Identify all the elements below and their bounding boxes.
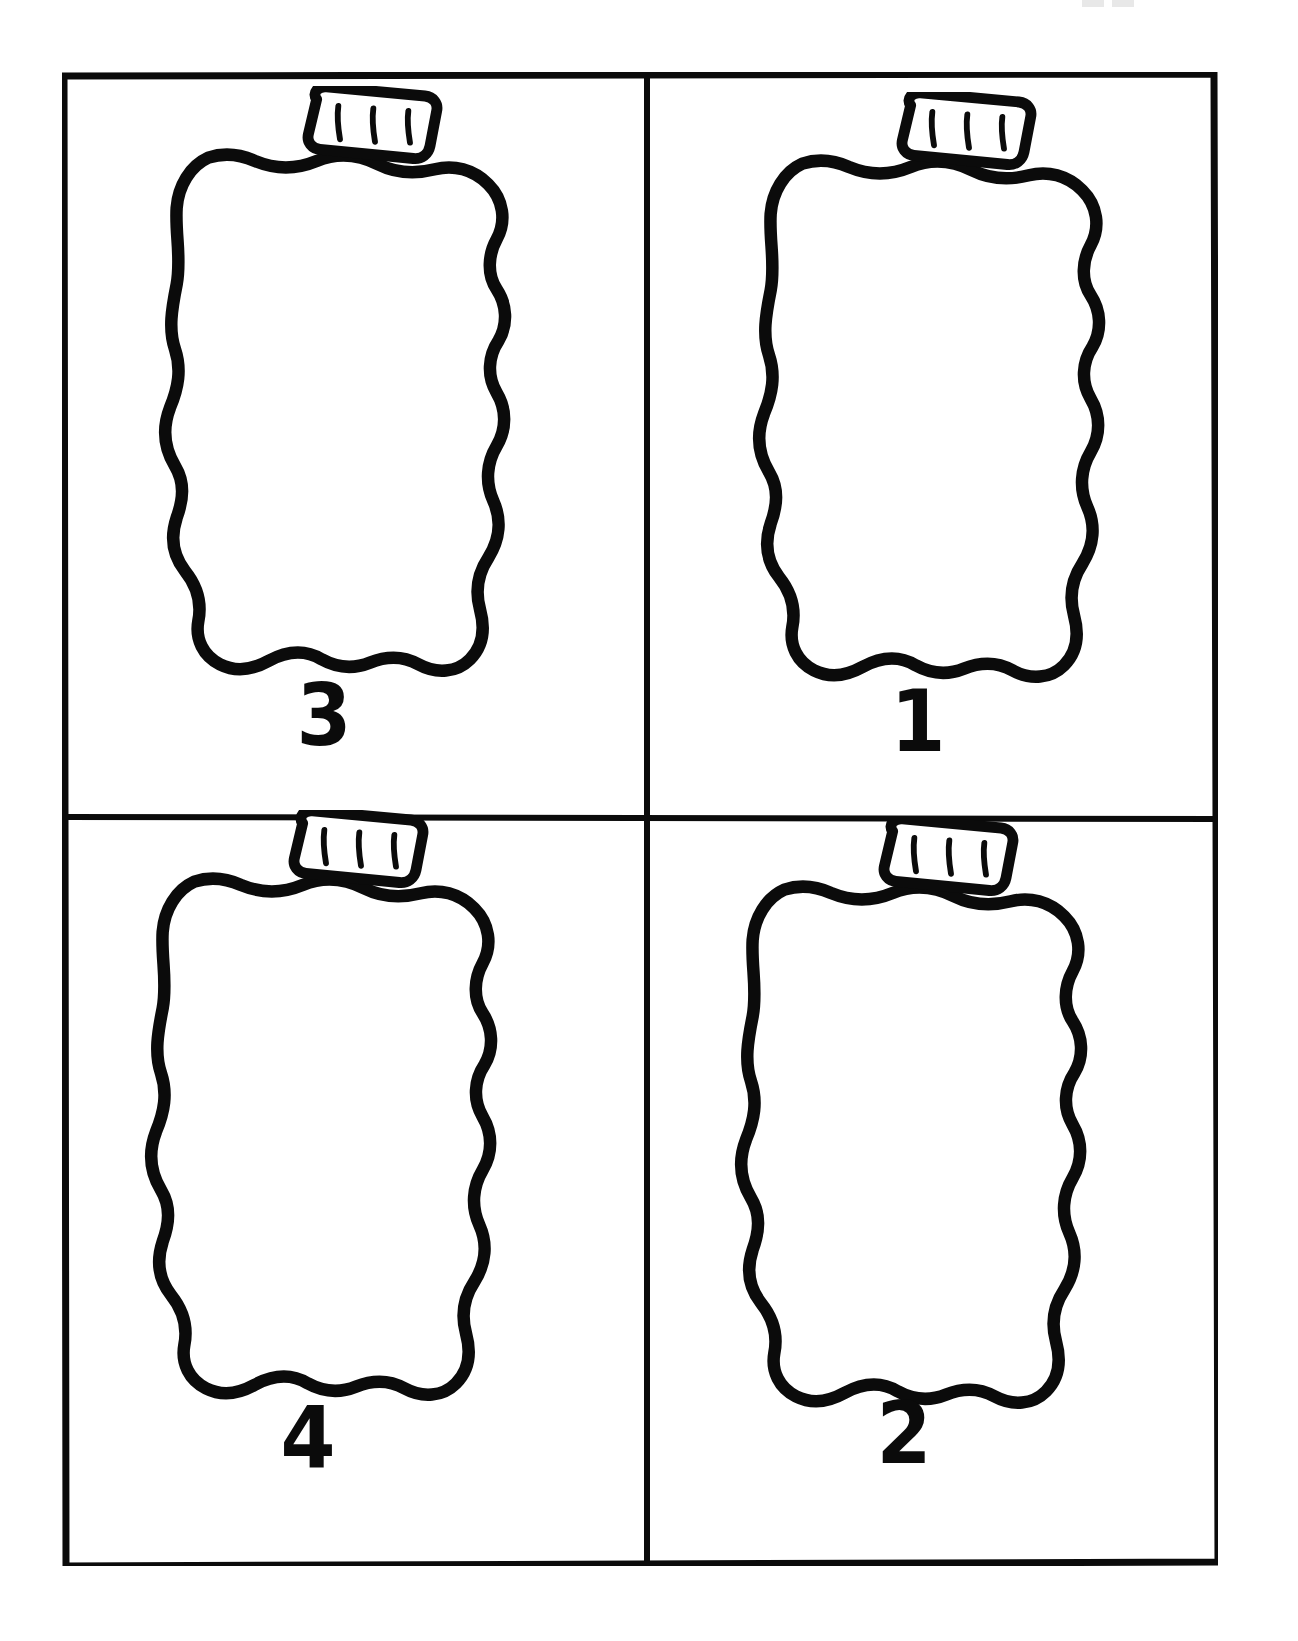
cell-label-bottom-right: 2 [830, 1390, 977, 1476]
cell-label-top-right: 1 [844, 678, 991, 764]
cell-bottom-left[interactable] [86, 810, 566, 1410]
pepper-outline-bottom-right [676, 818, 1156, 1418]
worksheet-page: 3 1 4 2 [0, 0, 1298, 1641]
pepper-outline-top-left [100, 86, 580, 686]
scan-artifact [1082, 0, 1140, 7]
pepper-outline-bottom-left [86, 810, 566, 1410]
pepper-outline-top-right [694, 92, 1174, 692]
cell-bottom-right[interactable] [676, 818, 1156, 1418]
cell-top-left[interactable] [100, 86, 580, 686]
cell-label-bottom-left: 4 [234, 1394, 381, 1480]
cell-top-right[interactable] [694, 92, 1174, 692]
cell-label-top-left: 3 [250, 672, 397, 758]
